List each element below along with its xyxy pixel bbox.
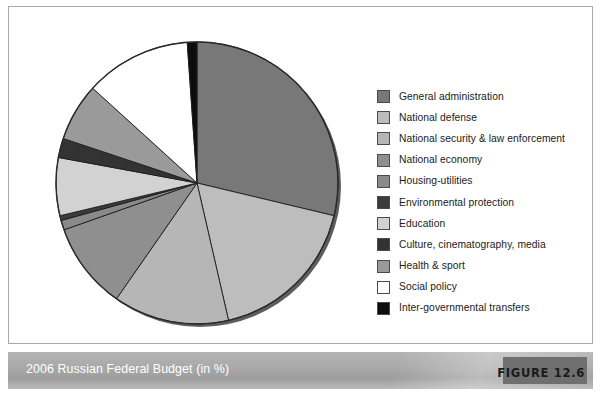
caption-bar: 2006 Russian Federal Budget (in %) FIGUR… [8,352,593,389]
legend-item: National defense [377,107,582,128]
legend-label: National economy [399,154,482,166]
legend-item: National security & law enforcement [377,128,582,149]
figure-caption: 2006 Russian Federal Budget (in %) [26,362,229,376]
legend-item: Culture, cinematography, media [377,234,582,255]
legend-label: Education [399,218,445,230]
legend-item: Education [377,213,582,234]
legend-swatch [377,111,390,124]
legend-label: Environmental protection [399,197,514,209]
legend-swatch [377,238,390,251]
legend-swatch [377,302,390,315]
legend-item: National economy [377,150,582,171]
legend-label: Health & sport [399,260,465,272]
legend-label: Housing-utilities [399,175,473,187]
legend-swatch [377,196,390,209]
legend-label: National defense [399,112,477,124]
pie-chart-svg [52,36,344,332]
legend-swatch [377,154,390,167]
legend-swatch [377,175,390,188]
legend-item: Environmental protection [377,192,582,213]
pie-chart [52,36,344,332]
legend-swatch [377,90,390,103]
legend-item: Inter-governmental transfers [377,298,582,319]
legend-label: Social policy [399,281,457,293]
legend-swatch [377,260,390,273]
legend-label: Inter-governmental transfers [399,302,530,314]
legend-swatch [377,281,390,294]
legend-item: Social policy [377,277,582,298]
legend-label: National security & law enforcement [399,133,565,145]
legend-swatch [377,132,390,145]
legend-item: General administration [377,86,582,107]
figure-container: General administrationNational defenseNa… [0,0,602,401]
legend-item: Health & sport [377,256,582,277]
legend-swatch [377,217,390,230]
chart-legend: General administrationNational defenseNa… [377,86,582,319]
legend-item: Housing-utilities [377,171,582,192]
figure-tag-label: FIGURE 12.6 [497,366,585,380]
legend-label: Culture, cinematography, media [399,239,546,251]
pie-slice-group [56,42,338,324]
legend-label: General administration [399,91,504,103]
